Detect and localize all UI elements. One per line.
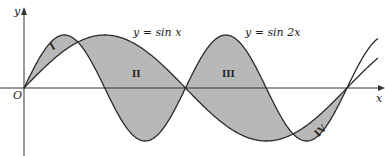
region-ii-label: II xyxy=(132,67,141,79)
sin-x-label: y = sin x xyxy=(133,26,181,39)
y-axis-label: y xyxy=(14,5,20,18)
graph-canvas xyxy=(0,0,385,156)
y-axis-arrow-icon xyxy=(21,7,27,15)
region-iii-label: III xyxy=(222,67,235,79)
x-axis-label: x xyxy=(376,92,382,105)
sin-2x-label: y = sin 2x xyxy=(245,26,300,39)
x-axis-arrow-icon xyxy=(378,85,385,91)
origin-label: O xyxy=(13,89,22,102)
